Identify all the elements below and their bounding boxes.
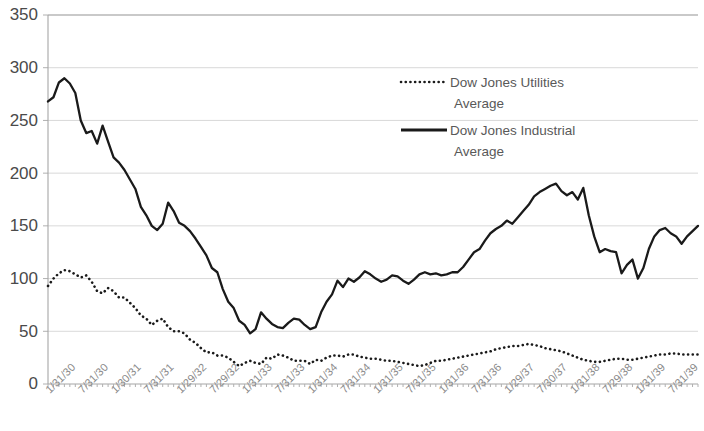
y-tick-label: 0 bbox=[29, 374, 38, 393]
x-tick-label: 7/30/37 bbox=[535, 361, 569, 395]
y-tick-label: 100 bbox=[10, 269, 38, 288]
x-tick-label: 1/31/35 bbox=[371, 361, 405, 395]
legend-label-1-line2: Average bbox=[454, 96, 504, 111]
x-tick-label: 7/31/36 bbox=[469, 361, 503, 395]
series-lines bbox=[48, 78, 698, 366]
x-tick-label: 7/31/35 bbox=[403, 361, 437, 395]
x-tick-label: 1/31/39 bbox=[633, 361, 667, 395]
chart-container: 050100150200250300350 1/31/307/31/301/30… bbox=[0, 0, 704, 431]
x-tick-label: 1/29/32 bbox=[174, 361, 208, 395]
line-chart: 050100150200250300350 1/31/307/31/301/30… bbox=[0, 0, 704, 431]
series-line-1 bbox=[48, 270, 698, 366]
y-tick-label: 350 bbox=[10, 5, 38, 24]
x-tick-label: 7/29/32 bbox=[207, 361, 241, 395]
x-tick-label: 1/31/38 bbox=[567, 361, 601, 395]
chart-legend: Dow Jones UtilitiesAverageDow Jones Indu… bbox=[401, 75, 575, 159]
x-tick-label: 1/30/31 bbox=[108, 361, 142, 395]
x-tick-label: 1/31/34 bbox=[305, 361, 339, 395]
x-tick-label: 1/31/36 bbox=[436, 361, 470, 395]
x-tick-label: 1/29/37 bbox=[502, 361, 536, 395]
y-axis bbox=[43, 15, 48, 384]
y-tick-label: 200 bbox=[10, 164, 38, 183]
legend-label-2-line2: Average bbox=[454, 144, 504, 159]
x-tick-label: 7/31/33 bbox=[272, 361, 306, 395]
x-tick-label: 7/31/34 bbox=[338, 361, 372, 395]
x-tick-label: 7/31/31 bbox=[141, 361, 175, 395]
y-tick-label: 50 bbox=[19, 322, 38, 341]
x-tick-label: 7/31/39 bbox=[666, 361, 700, 395]
legend-label-2: Dow Jones Industrial bbox=[450, 123, 575, 138]
y-tick-label: 250 bbox=[10, 111, 38, 130]
y-tick-label: 150 bbox=[10, 216, 38, 235]
legend-label-1: Dow Jones Utilities bbox=[450, 75, 564, 90]
series-line-2 bbox=[48, 78, 698, 333]
y-tick-label: 300 bbox=[10, 58, 38, 77]
x-axis-tick-labels: 1/31/307/31/301/30/317/31/311/29/327/29/… bbox=[43, 361, 700, 395]
x-tick-label: 1/31/33 bbox=[240, 361, 274, 395]
x-tick-label: 7/31/30 bbox=[76, 361, 110, 395]
x-tick-label: 7/29/38 bbox=[600, 361, 634, 395]
gridlines bbox=[48, 15, 698, 331]
y-axis-tick-labels: 050100150200250300350 bbox=[10, 5, 38, 393]
